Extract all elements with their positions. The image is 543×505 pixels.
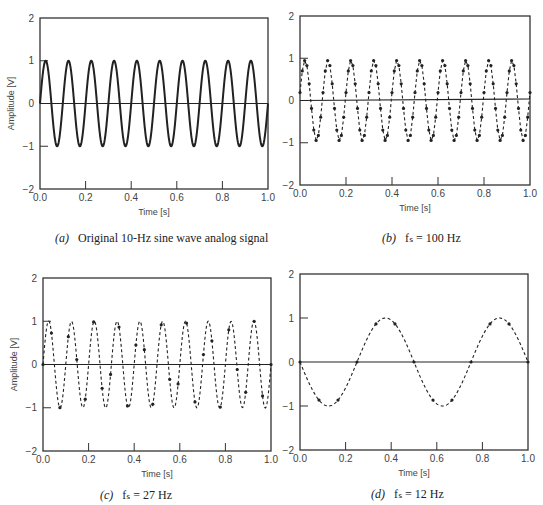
x-tick-label: 0.6 xyxy=(430,453,444,464)
figure-canvas: −2−10120.00.20.40.60.81.0Time [s]Amplitu… xyxy=(0,0,543,505)
sample-point xyxy=(505,91,508,94)
sample-point xyxy=(473,128,476,131)
sample-point xyxy=(365,116,368,119)
caption-d-label: (d) xyxy=(371,487,385,501)
sample-point xyxy=(512,64,515,67)
sample-point xyxy=(193,400,196,403)
sample-point xyxy=(41,363,44,366)
sample-point xyxy=(377,82,380,85)
y-tick-label: −1 xyxy=(23,141,35,152)
x-tick-label: 0.6 xyxy=(431,188,445,199)
sample-point xyxy=(478,134,481,137)
sample-point xyxy=(492,82,495,85)
sample-point xyxy=(374,322,377,325)
sample-point xyxy=(457,116,460,119)
sample-point xyxy=(446,82,449,85)
sample-point xyxy=(482,91,485,94)
y-tick-label: 2 xyxy=(31,273,37,284)
sample-point xyxy=(372,59,375,62)
sample-point xyxy=(244,391,247,394)
sample-point xyxy=(416,69,419,72)
sample-point xyxy=(92,320,95,323)
x-axis-label: Time [s] xyxy=(398,468,430,478)
sample-point xyxy=(436,91,439,94)
caption-c: (c) fₛ = 27 Hz xyxy=(100,488,172,503)
x-tick-label: 1.0 xyxy=(521,453,535,464)
sample-point xyxy=(344,91,347,94)
sample-point xyxy=(326,59,329,62)
sample-point xyxy=(358,128,361,131)
sample-point xyxy=(319,116,322,119)
x-tick-label: 0.0 xyxy=(36,454,50,465)
sample-point xyxy=(388,116,391,119)
sample-point xyxy=(431,399,434,402)
sample-point xyxy=(488,322,491,325)
y-tick-label: −1 xyxy=(26,402,38,413)
sample-point xyxy=(453,139,456,142)
sample-point xyxy=(151,403,154,406)
sample-point xyxy=(443,64,446,67)
sample-point xyxy=(317,399,320,402)
chart-panel-c: −2−10120.00.20.40.60.81.0Time [s]Amplitu… xyxy=(9,273,278,480)
chart-panel-b: −2−10120.00.20.40.60.81.0Time [s] xyxy=(283,11,538,214)
y-tick-label: 1 xyxy=(31,316,37,327)
y-tick-label: −1 xyxy=(283,137,295,148)
sample-point xyxy=(524,134,527,137)
sample-point xyxy=(338,139,341,142)
sample-point xyxy=(397,64,400,67)
sample-point xyxy=(427,128,430,131)
sample-point xyxy=(522,139,525,142)
sample-point xyxy=(499,139,502,142)
sample-point xyxy=(143,348,146,351)
sample-point xyxy=(439,69,442,72)
sample-point xyxy=(469,82,472,85)
y-axis-label: Amplitude [V] xyxy=(6,77,16,131)
x-tick-label: 0.6 xyxy=(170,192,184,203)
sample-point xyxy=(418,59,421,62)
sample-point xyxy=(210,339,213,342)
sample-point xyxy=(487,59,490,62)
sample-point xyxy=(412,360,415,363)
x-axis-label: Time [s] xyxy=(138,207,170,217)
y-tick-label: 0 xyxy=(288,357,294,368)
sample-point xyxy=(526,360,529,363)
sample-point xyxy=(508,69,511,72)
sample-point xyxy=(432,134,435,137)
x-tick-label: 0.2 xyxy=(79,192,93,203)
x-tick-label: 0.4 xyxy=(384,453,398,464)
sample-point xyxy=(177,382,180,385)
caption-d: (d) fₛ = 12 Hz xyxy=(371,487,444,502)
x-tick-label: 0.2 xyxy=(82,454,96,465)
sample-point xyxy=(367,91,370,94)
sample-point xyxy=(101,387,104,390)
sample-point xyxy=(420,64,423,67)
x-tick-label: 0.2 xyxy=(339,188,353,199)
x-tick-label: 0.6 xyxy=(173,454,187,465)
sample-point xyxy=(363,134,366,137)
caption-c-text: fₛ = 27 Hz xyxy=(122,488,172,502)
sample-point xyxy=(303,59,306,62)
caption-a-label: (a) xyxy=(55,231,69,245)
sample-point xyxy=(126,404,129,407)
caption-b: (b) fₛ = 100 Hz xyxy=(382,231,461,246)
sample-point xyxy=(361,139,364,142)
sample-point xyxy=(469,360,472,363)
sample-point xyxy=(517,107,520,110)
sample-point xyxy=(315,139,318,142)
caption-d-text: fₛ = 12 Hz xyxy=(394,487,444,501)
sample-point xyxy=(50,331,53,334)
sample-point xyxy=(160,323,163,326)
sample-point xyxy=(411,116,414,119)
sample-point xyxy=(356,107,359,110)
sample-point xyxy=(496,128,499,131)
sample-point xyxy=(466,64,469,67)
sample-point xyxy=(393,69,396,72)
chart-panel-d: −2−10120.00.20.40.60.81.0Time [s] xyxy=(283,269,536,479)
sample-point xyxy=(386,134,389,137)
sample-point xyxy=(400,82,403,85)
sample-point xyxy=(402,107,405,110)
sample-point xyxy=(450,128,453,131)
x-tick-label: 0.8 xyxy=(218,454,232,465)
sample-point xyxy=(349,59,352,62)
sample-point xyxy=(413,91,416,94)
